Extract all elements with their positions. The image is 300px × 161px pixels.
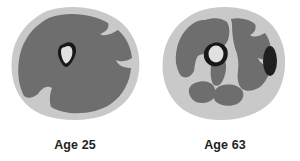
caption-age-25: Age 25 bbox=[0, 130, 150, 161]
fat-deposit-63 bbox=[263, 46, 277, 76]
panel-age-25: Age 25 bbox=[0, 0, 150, 161]
thigh-cross-section-age-63-svg bbox=[150, 0, 300, 130]
thigh-comparison-figure: Age 25 bbox=[0, 0, 300, 161]
panel-age-63: Age 63 bbox=[150, 0, 300, 161]
bone-marrow-63 bbox=[209, 46, 224, 63]
caption-age-63: Age 63 bbox=[150, 130, 300, 161]
thigh-cross-section-age-25-svg bbox=[0, 0, 150, 130]
ct-scan-age-63 bbox=[150, 0, 300, 130]
ct-scan-age-25 bbox=[0, 0, 150, 130]
muscle-region-63-central bbox=[213, 85, 243, 106]
